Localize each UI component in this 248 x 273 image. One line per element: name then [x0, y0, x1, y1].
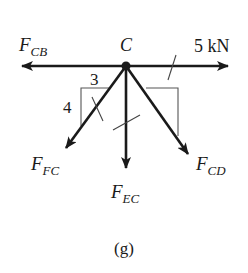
free-body-diagram: C FCB 5 kN 3 4 FFC FEC FCD (g) [0, 0, 248, 273]
hash-mark-5kn [168, 55, 176, 80]
label-slope-3: 3 [90, 70, 99, 89]
joint-c-label: C [120, 35, 133, 55]
figure-caption: (g) [114, 239, 134, 258]
force-fcd-arrow [126, 66, 188, 154]
label-5kn: 5 kN [194, 36, 230, 56]
label-fcd: FCD [195, 153, 226, 178]
label-slope-4: 4 [63, 98, 72, 117]
slope-triangle-right [146, 88, 178, 136]
joint-c-node [122, 62, 131, 71]
label-fec: FEC [110, 181, 140, 206]
label-ffc: FFC [30, 153, 60, 178]
label-fcb: FCB [18, 34, 47, 59]
